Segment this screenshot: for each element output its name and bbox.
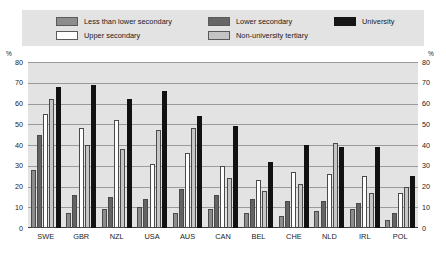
bar-swe-non-university-tertiary: [49, 99, 54, 228]
legend-item-lower-secondary: Lower secondary: [208, 17, 292, 26]
y-axis-tick-left-10: 10: [5, 204, 23, 211]
bar-irl-university: [375, 147, 380, 228]
y-axis-tick-right-70: 70: [422, 79, 440, 86]
y-axis-unit-right: %: [428, 50, 434, 57]
bar-bel-university: [268, 162, 273, 228]
bar-group-usa: [134, 62, 169, 228]
legend-label-less-than-lower-secondary: Less than lower secondary: [84, 17, 172, 26]
bar-irl-less-than-lower-secondary: [350, 209, 355, 228]
bar-nzl-less-than-lower-secondary: [102, 209, 107, 228]
bar-che-lower-secondary: [285, 201, 290, 228]
y-axis-tick-right-60: 60: [422, 100, 440, 107]
bar-group-che: [276, 62, 311, 228]
bar-bel-less-than-lower-secondary: [244, 213, 249, 228]
bar-nld-non-university-tertiary: [333, 143, 338, 228]
bar-usa-lower-secondary: [143, 199, 148, 228]
y-axis-unit-left: %: [6, 50, 12, 57]
x-axis-label-nzl: NZL: [97, 232, 137, 241]
bar-bel-lower-secondary: [250, 199, 255, 228]
bar-group-swe: [28, 62, 63, 228]
x-axis-label-gbr: GBR: [61, 232, 101, 241]
education-attainment-bar-chart: Less than lower secondary Upper secondar…: [0, 0, 446, 260]
plot-area: [28, 62, 418, 228]
bar-gbr-non-university-tertiary: [85, 145, 90, 228]
legend-item-less-than-lower-secondary: Less than lower secondary: [56, 17, 172, 26]
bar-aus-upper-secondary: [185, 153, 190, 228]
y-axis-tick-left-70: 70: [5, 79, 23, 86]
bar-can-upper-secondary: [220, 166, 225, 228]
legend-label-upper-secondary: Upper secondary: [84, 31, 140, 40]
x-axis-label-swe: SWE: [26, 232, 66, 241]
bar-che-university: [304, 145, 309, 228]
y-axis-tick-left-80: 80: [5, 59, 23, 66]
bar-swe-less-than-lower-secondary: [31, 170, 36, 228]
legend-label-lower-secondary: Lower secondary: [236, 17, 292, 26]
legend-swatch-icon-upper-secondary: [56, 31, 78, 40]
bar-group-gbr: [63, 62, 98, 228]
bar-nld-lower-secondary: [321, 201, 326, 228]
x-axis-label-che: CHE: [274, 232, 314, 241]
bar-gbr-less-than-lower-secondary: [66, 213, 71, 228]
bar-irl-non-university-tertiary: [369, 193, 374, 228]
legend-swatch-icon-university: [334, 17, 356, 26]
bar-aus-less-than-lower-secondary: [173, 213, 178, 228]
x-axis-label-bel: BEL: [238, 232, 278, 241]
bar-che-upper-secondary: [291, 172, 296, 228]
bar-swe-university: [56, 87, 61, 228]
bar-pol-upper-secondary: [398, 193, 403, 228]
bar-swe-lower-secondary: [37, 135, 42, 228]
bar-group-can: [205, 62, 240, 228]
bar-group-pol: [383, 62, 418, 228]
bar-bel-non-university-tertiary: [262, 191, 267, 228]
bar-group-irl: [347, 62, 382, 228]
bar-bel-upper-secondary: [256, 180, 261, 228]
bar-can-less-than-lower-secondary: [208, 209, 213, 228]
x-axis-label-nld: NLD: [309, 232, 349, 241]
bar-gbr-university: [91, 85, 96, 228]
y-axis-tick-right-30: 30: [422, 162, 440, 169]
y-axis-tick-left-40: 40: [5, 142, 23, 149]
bar-gbr-lower-secondary: [72, 195, 77, 228]
bar-swe-upper-secondary: [43, 114, 48, 228]
bar-group-nld: [312, 62, 347, 228]
bar-can-non-university-tertiary: [227, 178, 232, 228]
bar-che-less-than-lower-secondary: [279, 216, 284, 228]
legend-label-non-university-tertiary: Non-university tertiary: [236, 31, 308, 40]
bar-nzl-non-university-tertiary: [120, 149, 125, 228]
bar-nzl-university: [127, 99, 132, 228]
x-axis-label-pol: POL: [380, 232, 420, 241]
x-axis-label-can: CAN: [203, 232, 243, 241]
y-axis-tick-left-60: 60: [5, 100, 23, 107]
y-axis-tick-right-40: 40: [422, 142, 440, 149]
y-axis-tick-right-50: 50: [422, 121, 440, 128]
chart-legend: Less than lower secondary Upper secondar…: [22, 10, 424, 46]
bar-aus-university: [197, 116, 202, 228]
legend-swatch-icon-lower-secondary: [208, 17, 230, 26]
bar-usa-upper-secondary: [150, 164, 155, 228]
bar-can-university: [233, 126, 238, 228]
bar-group-bel: [241, 62, 276, 228]
bar-pol-university: [410, 176, 415, 228]
legend-item-university: University: [334, 17, 394, 26]
y-axis-tick-left-30: 30: [5, 162, 23, 169]
bar-nld-upper-secondary: [327, 174, 332, 228]
y-axis-tick-left-50: 50: [5, 121, 23, 128]
bar-group-nzl: [99, 62, 134, 228]
y-axis-tick-right-80: 80: [422, 59, 440, 66]
bar-irl-lower-secondary: [356, 203, 361, 228]
bar-pol-lower-secondary: [392, 213, 397, 228]
legend-item-upper-secondary: Upper secondary: [56, 31, 140, 40]
x-axis-label-aus: AUS: [168, 232, 208, 241]
legend-swatch-icon-non-university-tertiary: [208, 31, 230, 40]
bar-che-non-university-tertiary: [298, 184, 303, 228]
bar-pol-non-university-tertiary: [404, 187, 409, 229]
y-axis-tick-right-20: 20: [422, 183, 440, 190]
bar-nzl-upper-secondary: [114, 120, 119, 228]
legend-label-university: University: [362, 17, 394, 26]
y-axis-tick-left-0: 0: [5, 225, 23, 232]
bar-usa-less-than-lower-secondary: [137, 207, 142, 228]
bar-nzl-lower-secondary: [108, 197, 113, 228]
x-axis-label-irl: IRL: [345, 232, 385, 241]
bar-usa-university: [162, 91, 167, 228]
bar-can-lower-secondary: [214, 195, 219, 228]
